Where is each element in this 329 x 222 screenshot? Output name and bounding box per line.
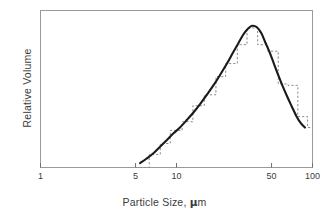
x-axis-title-suffix: m [198,196,207,208]
distribution-curve-path [140,26,305,163]
x-axis-tick-label: 50 [257,171,287,181]
x-axis-tick-label: 5 [121,171,151,181]
y-axis-title-text: Relative Volume [21,49,33,128]
x-axis-title: Particle Size, μm [0,196,329,208]
y-axis-title: Relative Volume [21,8,33,168]
x-axis-tick-label: 10 [162,171,192,181]
x-axis-title-prefix: Particle Size, [122,196,189,208]
chart-plot-area [0,0,329,222]
x-axis-tick-label: 1 [26,171,56,181]
x-axis-tick-label: 100 [298,171,328,181]
x-axis-ticks [41,163,313,168]
plot-frame [41,11,313,168]
chart-figure: 151050100 Particle Size, μm Relative Vol… [0,0,329,222]
micro-symbol-icon: μ [190,196,198,208]
histogram-step-path [136,28,313,168]
